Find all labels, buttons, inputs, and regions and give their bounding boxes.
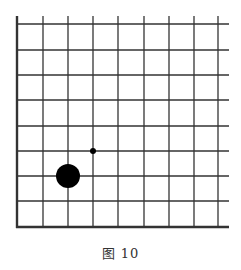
black-stone (56, 164, 80, 188)
figure-caption: 图 10 (0, 243, 241, 262)
go-board-diagram (0, 0, 241, 240)
marker-dot (90, 148, 96, 154)
